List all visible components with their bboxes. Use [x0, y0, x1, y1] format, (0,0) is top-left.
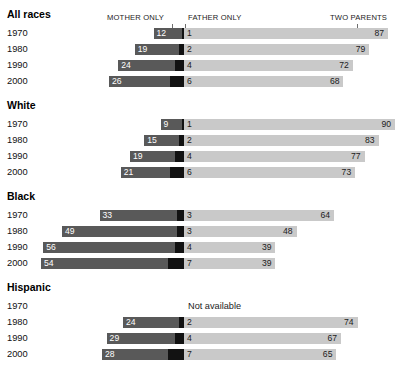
year-label: 1980 — [7, 317, 28, 328]
value-label-mother-only: 56 — [46, 242, 56, 253]
bar-row: 198024274 — [0, 316, 406, 329]
bar-row: 200026668 — [0, 75, 406, 88]
bar-segment-father-only — [168, 349, 184, 360]
bar-row: 200021673 — [0, 166, 406, 179]
year-label: 1990 — [7, 242, 28, 253]
value-label-mother-only: 54 — [44, 258, 54, 269]
bar-segment-father-only — [175, 242, 184, 253]
chart-legend-header: MOTHER ONLY FATHER ONLY TWO PARENTS — [0, 0, 406, 24]
year-label: 2000 — [7, 167, 28, 178]
value-label-mother-only: 19 — [133, 151, 143, 162]
legend-label-mother-only: MOTHER ONLY — [107, 13, 164, 22]
value-label-mother-only: 29 — [110, 333, 120, 344]
year-label: 2000 — [7, 76, 28, 87]
bar-segment-mother-only — [43, 242, 174, 253]
year-label: 2000 — [7, 258, 28, 269]
value-label-mother-only: 26 — [112, 76, 122, 87]
value-label-mother-only: 24 — [126, 317, 136, 328]
bar-segment-father-only — [175, 151, 184, 162]
value-label-mother-only: 9 — [164, 119, 169, 130]
value-label-two-parents: 87 — [184, 28, 384, 39]
value-label-two-parents: 74 — [184, 317, 354, 328]
value-label-two-parents: 73 — [184, 167, 351, 178]
year-label: 1980 — [7, 135, 28, 146]
value-label-two-parents: 83 — [184, 135, 375, 146]
group-title-hispanic: Hispanic — [7, 281, 51, 293]
bar-row: 199056439 — [0, 241, 406, 254]
legend-label-two-parents: TWO PARENTS — [330, 13, 387, 22]
value-label-mother-only: 12 — [157, 28, 167, 39]
value-label-mother-only: 24 — [121, 60, 131, 71]
bar-segment-father-only — [168, 258, 184, 269]
value-label-two-parents: 72 — [184, 60, 349, 71]
value-label-two-parents: 79 — [184, 44, 365, 55]
bar-segment-father-only — [170, 167, 184, 178]
bar-segment-mother-only — [41, 258, 168, 269]
bar-row: 1970Not available — [0, 300, 406, 313]
year-label: 1970 — [7, 119, 28, 130]
value-label-mother-only: 49 — [65, 226, 75, 237]
bar-row: 199024472 — [0, 59, 406, 72]
year-label: 1980 — [7, 44, 28, 55]
bar-segment-father-only — [177, 210, 184, 221]
legend-label-father-only: FATHER ONLY — [188, 13, 242, 22]
value-label-mother-only: 28 — [105, 349, 115, 360]
year-label: 1990 — [7, 60, 28, 71]
bar-row: 199029467 — [0, 332, 406, 345]
group-title-white: White — [7, 99, 36, 111]
bar-row: 198015283 — [0, 134, 406, 147]
value-label-two-parents: 64 — [184, 210, 330, 221]
value-label-two-parents: 39 — [184, 258, 271, 269]
value-label-two-parents: 68 — [184, 76, 339, 87]
living-arrangements-chart: MOTHER ONLY FATHER ONLY TWO PARENTS All … — [0, 0, 406, 375]
value-label-mother-only: 21 — [124, 167, 134, 178]
year-label: 1970 — [7, 28, 28, 39]
year-label: 1990 — [7, 333, 28, 344]
value-label-two-parents: 48 — [184, 226, 293, 237]
group-title-black: Black — [7, 190, 35, 202]
not-available-note: Not available — [188, 301, 241, 313]
bar-row: 199019477 — [0, 150, 406, 163]
value-label-two-parents: 77 — [184, 151, 361, 162]
bar-segment-father-only — [175, 60, 184, 71]
value-label-two-parents: 65 — [184, 349, 332, 360]
value-label-two-parents: 39 — [184, 242, 271, 253]
group-title-all-races: All races — [7, 8, 51, 20]
value-label-mother-only: 19 — [138, 44, 148, 55]
year-label: 1990 — [7, 151, 28, 162]
bar-row: 200028765 — [0, 348, 406, 361]
bar-row: 197033364 — [0, 209, 406, 222]
value-label-mother-only: 33 — [103, 210, 113, 221]
bar-row: 198049348 — [0, 225, 406, 238]
value-label-two-parents: 67 — [184, 333, 337, 344]
bar-segment-father-only — [177, 226, 184, 237]
bar-segment-mother-only — [62, 226, 177, 237]
bar-row: 198019279 — [0, 43, 406, 56]
year-label: 1970 — [7, 210, 28, 221]
bar-row: 19709190 — [0, 118, 406, 131]
value-label-mother-only: 15 — [147, 135, 157, 146]
bar-row: 200054739 — [0, 257, 406, 270]
value-label-two-parents: 90 — [184, 119, 391, 130]
bar-segment-father-only — [170, 76, 184, 87]
year-label: 2000 — [7, 349, 28, 360]
year-label: 1970 — [7, 301, 28, 312]
bar-segment-father-only — [175, 333, 184, 344]
year-label: 1980 — [7, 226, 28, 237]
bar-row: 197012187 — [0, 27, 406, 40]
